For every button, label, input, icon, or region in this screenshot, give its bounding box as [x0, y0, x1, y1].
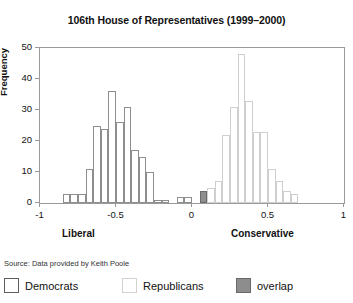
y-tick-label: 10	[21, 165, 32, 176]
histogram-bar-dem	[139, 157, 147, 204]
legend-item-republicans: Republicans	[122, 278, 204, 293]
y-tick-label: 50	[21, 41, 32, 52]
legend-swatch-democrats	[4, 278, 19, 293]
y-tick-label: 30	[21, 103, 32, 114]
histogram-bar-dem	[177, 197, 185, 203]
x-tick-label: 0	[173, 209, 210, 220]
y-tick: 0	[0, 202, 39, 203]
legend-item-overlap: overlap	[236, 278, 293, 293]
legend-label-democrats: Democrats	[25, 280, 78, 292]
histogram-bar-rep	[260, 132, 268, 203]
histogram-bar-dem	[101, 129, 109, 203]
y-tick: 10	[0, 171, 39, 172]
histogram-bar-dem	[116, 122, 124, 203]
legend-item-democrats: Democrats	[4, 278, 78, 293]
histogram-bars	[40, 48, 344, 203]
y-tick: 40	[0, 78, 39, 79]
histogram-bar-dem	[78, 194, 86, 203]
axis-pole-label-left: Liberal	[62, 228, 95, 239]
histogram-bar-dem	[63, 194, 71, 203]
axis-pole-label-right: Conservative	[231, 228, 294, 239]
source-note: Source: Data provided by Keith Poole	[4, 259, 129, 268]
histogram-bar-rep	[238, 54, 246, 203]
plot-area	[39, 47, 345, 204]
histogram-bar-rep	[283, 191, 291, 203]
legend: Democrats Republicans overlap	[4, 278, 349, 298]
histogram-bar-dem	[162, 200, 170, 203]
histogram-bar-rep	[207, 188, 215, 204]
histogram-bar-rep	[268, 169, 276, 203]
histogram-bar-rep	[222, 135, 230, 203]
y-tick-label: 20	[21, 134, 32, 145]
x-tick-label: 1	[325, 209, 353, 220]
histogram-bar-rep	[253, 132, 261, 203]
histogram-bar-dem	[184, 197, 192, 203]
histogram-bar-dem	[146, 172, 154, 203]
x-tick-label: 0.5	[249, 209, 286, 220]
legend-swatch-overlap	[236, 278, 251, 293]
legend-swatch-republicans	[122, 278, 137, 293]
histogram-bar-dem	[131, 150, 139, 203]
y-axis-label: Frequency	[0, 48, 9, 96]
histogram-bar-rep	[291, 194, 299, 203]
histogram-bar-rep	[230, 107, 238, 203]
histogram-bar-rep	[215, 181, 223, 203]
histogram-bar-dem	[124, 107, 132, 203]
y-tick: 20	[0, 140, 39, 141]
histogram-bar-dem	[86, 169, 94, 203]
chart-title: 106th House of Representatives (1999–200…	[0, 14, 353, 26]
x-tick-label: -1	[21, 209, 58, 220]
histogram-bar-rep	[245, 101, 253, 203]
histogram-bar-dem	[154, 200, 162, 203]
legend-label-republicans: Republicans	[143, 280, 204, 292]
histogram-bar-dem	[108, 91, 116, 203]
y-tick-label: 0	[27, 196, 32, 207]
x-tick-label: -0.5	[97, 209, 134, 220]
histogram-bar-rep	[276, 181, 284, 203]
histogram-bar-overlap	[200, 191, 208, 203]
y-tick-label: 40	[21, 72, 32, 83]
y-tick: 50	[0, 47, 39, 48]
histogram-bar-dem	[93, 126, 101, 204]
legend-label-overlap: overlap	[257, 280, 293, 292]
histogram-bar-dem	[70, 194, 78, 203]
y-tick: 30	[0, 109, 39, 110]
